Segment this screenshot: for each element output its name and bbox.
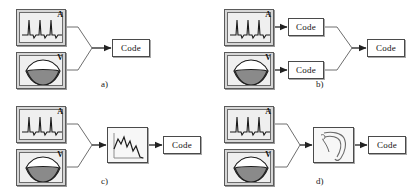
audio-signal-box: A [224, 9, 274, 46]
audio-signal-box: A [16, 106, 66, 143]
vocal-tract-icon [314, 128, 354, 163]
audio-code-box: Code [288, 18, 324, 36]
signal-plot-box [107, 127, 148, 163]
panel-label-d: d) [316, 176, 324, 186]
video-modality-tag: V [265, 53, 271, 62]
signal-plot-icon [108, 128, 148, 163]
video-lips-box: V [224, 149, 274, 186]
audio-modality-tag: A [57, 10, 63, 19]
video-code-box: Code [288, 61, 324, 79]
video-modality-tag: V [57, 150, 63, 159]
figure-canvas: A V Code a) A [0, 0, 417, 193]
joint-code-box: Code [367, 39, 405, 57]
video-lips-box: V [224, 52, 274, 89]
video-modality-tag: V [57, 53, 63, 62]
video-lips-box: V [16, 149, 66, 186]
panel-label-b: b) [316, 79, 324, 89]
code-box: Code [112, 39, 150, 57]
code-box: Code [368, 136, 406, 154]
video-lips-box: V [16, 52, 66, 89]
vocal-tract-box [313, 127, 354, 163]
video-modality-tag: V [265, 150, 271, 159]
audio-signal-box: A [16, 9, 66, 46]
panel-label-c: c) [101, 176, 108, 186]
audio-modality-tag: A [265, 107, 271, 116]
audio-modality-tag: A [265, 10, 271, 19]
audio-signal-box: A [224, 106, 274, 143]
code-box: Code [163, 136, 201, 154]
panel-label-a: a) [101, 79, 108, 89]
audio-modality-tag: A [57, 107, 63, 116]
